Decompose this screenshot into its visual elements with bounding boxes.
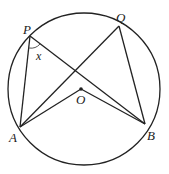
segment-OB [81,89,145,124]
geometry-diagram: P Q A B O x [0,0,169,174]
label-P: P [22,22,31,37]
center-point [79,87,83,91]
label-Q: Q [116,10,126,25]
label-A: A [8,130,17,145]
segment-QB [119,26,145,124]
segment-PB [30,36,145,124]
segment-AO [20,89,81,127]
diagram-svg: P Q A B O x [0,0,169,174]
label-B: B [147,128,155,143]
angle-label-x: x [35,49,42,63]
angle-arc [29,44,40,48]
segment-PA [20,36,30,127]
segment-QA [20,26,119,127]
label-O: O [76,92,86,107]
